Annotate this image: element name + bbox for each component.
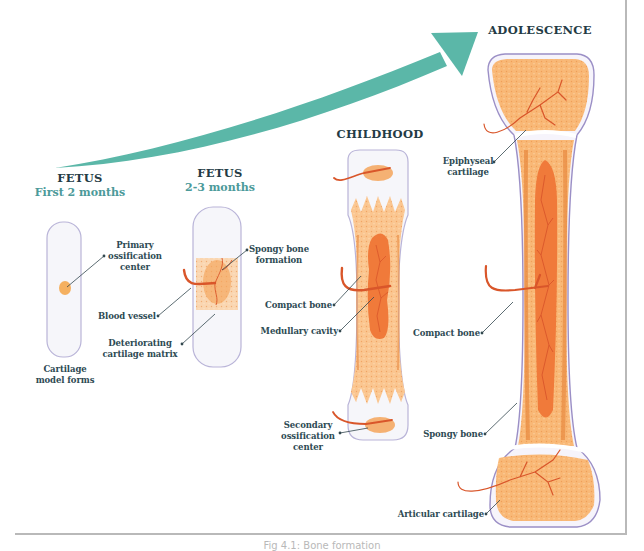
figure-caption: Fig 4.1: Bone formation: [0, 540, 644, 551]
stage-title-fetus-3-months: FETUS: [180, 166, 260, 180]
bone-fetus-2-months: [47, 222, 105, 357]
stage-title-fetus-2-months: FETUS: [40, 171, 120, 185]
label-secondary-ossification-center: Secondary ossification center: [278, 420, 338, 453]
label-blood-vessel: Blood vessel: [86, 311, 156, 322]
stage-title-adolescence: ADOLESCENCE: [480, 23, 600, 37]
stage-subtitle-fetus-3-months: 2-3 months: [180, 181, 260, 194]
label-articular-cartilage: Articular cartilage: [384, 509, 484, 520]
label-compact-bone-childhood: Compact bone: [250, 300, 332, 311]
bone-childhood: [333, 150, 408, 440]
label-compact-bone-adolescence: Compact bone: [400, 328, 480, 339]
label-cartilage-model-forms: Cartilage model forms: [30, 364, 100, 386]
label-primary-ossification-center: Primary ossification center: [100, 240, 170, 273]
label-spongy-bone: Spongy bone: [410, 429, 483, 440]
label-epiphyseal-cartilage: Epiphyseal cartilage: [438, 156, 498, 178]
bone-adolescence: [458, 54, 600, 527]
label-deteriorating-cartilage-matrix: Deteriorating cartilage matrix: [100, 338, 180, 360]
stage-subtitle-fetus-2-months: First 2 months: [20, 186, 140, 199]
label-spongy-bone-formation: Spongy bone formation: [245, 244, 313, 266]
label-medullary-cavity: Medullary cavity: [240, 326, 338, 337]
stage-title-childhood: CHILDHOOD: [330, 127, 430, 141]
growth-arrow-icon: [55, 32, 478, 168]
